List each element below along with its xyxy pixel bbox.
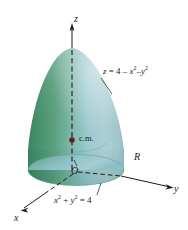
center-of-mass-label: c.m. — [79, 134, 94, 143]
base-eq-rhs: 4 — [87, 195, 92, 205]
z-axis — [70, 23, 75, 50]
y-axis-arrowhead — [165, 184, 173, 189]
axis-label-origin: O — [71, 166, 78, 176]
axis-label-x: x — [14, 213, 18, 223]
surface-eq-term2-exponent: 2 — [145, 65, 148, 71]
base-circle-equation-label: x2 + y2 = 4 — [54, 195, 92, 205]
axis-label-z: z — [74, 14, 78, 24]
center-of-mass-marker — [69, 137, 74, 142]
paraboloid-diagram: z y x O R c.m. z = 4 – x2–y2 x2 + y2 = 4 — [0, 0, 188, 230]
axis-label-y: y — [174, 184, 178, 194]
diagram-canvas — [0, 0, 188, 230]
region-label-R: R — [134, 152, 140, 162]
surface-equation-label: z = 4 – x2–y2 — [103, 66, 148, 76]
x-axis-arrowhead — [21, 208, 29, 213]
paraboloid-solid — [28, 41, 126, 186]
base-equation-leader — [97, 183, 101, 195]
